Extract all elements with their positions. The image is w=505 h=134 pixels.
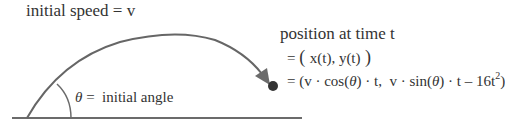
formula-part-1: (v · cos( [299, 73, 349, 89]
position-coords: x(t), y(t) [310, 50, 361, 66]
paren-close: ) [361, 47, 372, 67]
equals-sign: = [287, 50, 299, 66]
initial-angle-label: θ = initial angle [75, 89, 173, 106]
formula-part-3: ) · t – 16t [439, 73, 495, 89]
paren-open: ( [299, 47, 310, 67]
position-dot [268, 81, 278, 91]
arrowhead-icon [255, 68, 270, 85]
initial-angle-text: = initial angle [82, 89, 173, 105]
equals-sign: = [287, 73, 299, 89]
position-line-2: = (v · cos(θ) · t, v · sin(θ) · t – 16t2… [287, 70, 505, 90]
initial-speed-label: initial speed = v [26, 1, 135, 21]
formula-part-2: ) · t, v · sin( [357, 73, 432, 89]
position-line-1: = ( x(t), y(t) ) [287, 47, 371, 68]
theta-symbol: θ [349, 73, 356, 89]
angle-arc [57, 84, 71, 118]
position-title: position at time t [280, 24, 395, 44]
formula-part-4: ) [500, 73, 505, 89]
